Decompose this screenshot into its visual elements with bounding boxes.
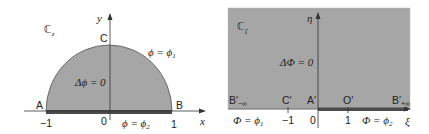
point-c-label: C <box>100 32 108 44</box>
tick-neg1: −1 <box>282 114 294 126</box>
point-a-prime: A′ <box>307 94 316 106</box>
upper-half-plane-region <box>228 8 410 109</box>
tick-zero: 0 <box>310 114 316 126</box>
laplace-equation-zeta: ΔΦ = 0 <box>279 56 314 68</box>
laplace-equation-z: Δϕ = 0 <box>74 76 106 88</box>
x-axis-arrow-icon <box>199 109 206 114</box>
x-axis-label: x <box>199 115 205 127</box>
tick-one: 1 <box>171 118 177 130</box>
tick-neg1: −1 <box>40 117 52 129</box>
point-c-prime: C′ <box>282 94 292 106</box>
tick-zero: 0 <box>101 115 107 127</box>
tick-one: 1 <box>345 114 351 126</box>
plane-label-cz: ℂz <box>44 23 55 38</box>
y-axis-label: y <box>96 12 102 24</box>
y-axis-arrow-icon <box>108 13 113 20</box>
base-boundary-condition: ϕ = ϕ2 <box>122 117 150 131</box>
left-boundary-condition: Φ = ϕ1 <box>233 114 264 128</box>
eta-axis-label: η <box>307 12 312 24</box>
left-panel-z-plane: ℂz y x C A B −1 0 1 ϕ = ϕ1 ϕ = ϕ2 Δϕ = 0 <box>24 12 206 131</box>
arc-boundary-condition: ϕ = ϕ1 <box>148 46 176 60</box>
point-o-prime: O′ <box>343 94 353 106</box>
conformal-map-diagram: ℂz y x C A B −1 0 1 ϕ = ϕ1 ϕ = ϕ2 Δϕ = 0… <box>0 0 429 134</box>
right-boundary <box>318 108 408 112</box>
right-panel-zeta-plane: ℂζ η ξ B′−∞ C′ A′ O′ B′+∞ −1 0 1 Φ = ϕ1 … <box>228 8 411 128</box>
right-boundary-condition: Φ = ϕ2 <box>362 114 393 128</box>
point-b-label: B <box>176 99 183 111</box>
xi-axis-label: ξ <box>405 115 410 128</box>
point-a-label: A <box>36 99 43 111</box>
